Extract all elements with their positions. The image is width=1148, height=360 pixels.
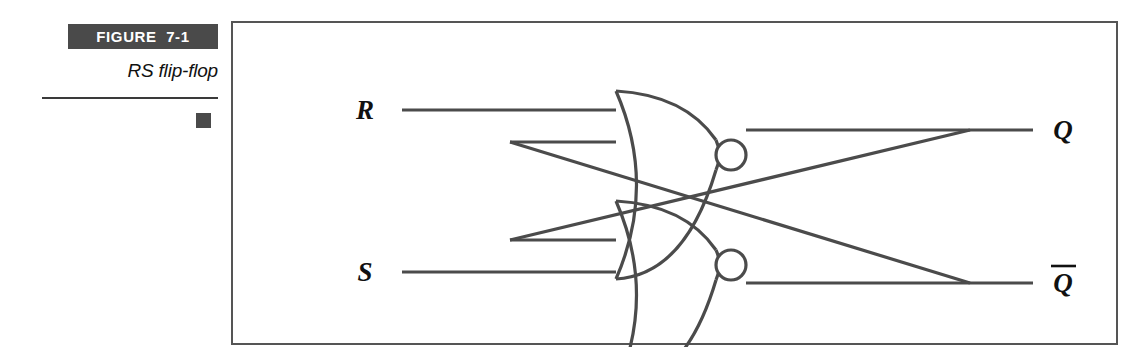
label-output-qbar: Q bbox=[1053, 268, 1073, 298]
nor-gate-top-inversion-bubble bbox=[716, 140, 746, 170]
label-input-r: R bbox=[355, 95, 374, 125]
caption-square-marker bbox=[196, 113, 211, 128]
figure-number-band: FIGURE 7-1 bbox=[68, 24, 218, 49]
caption-divider-rule bbox=[42, 97, 218, 99]
nor-gate-top-lower-edge bbox=[616, 170, 716, 279]
figure-caption-block: FIGURE 7-1 RS flip-flop bbox=[0, 0, 231, 360]
nor-gate-bottom-inversion-bubble bbox=[716, 250, 746, 280]
rs-flip-flop-diagram: R S Q Q bbox=[233, 23, 1120, 347]
label-input-s: S bbox=[357, 257, 372, 287]
figure-title: RS flip-flop bbox=[0, 60, 218, 82]
label-output-q: Q bbox=[1053, 115, 1073, 145]
figure-border-box: R S Q Q bbox=[231, 21, 1118, 345]
figure-number-label: FIGURE 7-1 bbox=[96, 28, 189, 45]
